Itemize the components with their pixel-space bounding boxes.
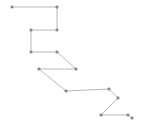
data-point-marker [30,51,32,53]
data-point-marker [11,6,13,8]
data-point-marker [100,114,102,116]
plot-background [0,0,145,129]
data-point-marker [65,90,67,92]
data-point-marker [117,97,119,99]
data-point-marker [108,88,110,90]
data-point-marker [38,68,40,70]
data-point-marker [56,51,58,53]
figure-canvas [0,0,145,129]
data-point-marker [30,29,32,31]
data-point-marker [131,117,133,119]
data-point-marker [75,68,77,70]
polyline-plot [0,0,145,129]
data-point-marker [56,29,58,31]
data-point-marker [127,114,129,116]
data-point-marker [56,6,58,8]
